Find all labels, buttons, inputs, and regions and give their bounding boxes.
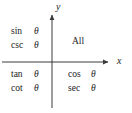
quadrant-2-group: sin θ csc θ: [11, 26, 39, 54]
function-entry: cos θ: [68, 69, 96, 83]
function-entry: cot θ: [11, 83, 39, 97]
function-argument: θ: [34, 40, 39, 50]
function-name: csc: [11, 40, 34, 50]
function-name: sin: [11, 26, 34, 36]
function-argument: θ: [91, 83, 96, 93]
function-argument: θ: [34, 26, 39, 36]
quadrant-3-group: tan θ cot θ: [11, 69, 39, 97]
function-name: tan: [11, 69, 34, 79]
function-name: cos: [68, 69, 91, 79]
function-argument: θ: [34, 69, 39, 79]
function-entry: csc θ: [11, 40, 39, 54]
function-name: cot: [11, 83, 34, 93]
quadrant-4-group: cos θ sec θ: [68, 69, 96, 97]
function-entry: sin θ: [11, 26, 39, 40]
trig-quadrant-diagram: y x All sin θ csc θ tan θ cot θ cos θ: [0, 0, 132, 113]
function-entry: tan θ: [11, 69, 39, 83]
quadrant-1-group: All: [72, 30, 84, 48]
function-argument: θ: [91, 69, 96, 79]
function-entry: sec θ: [68, 83, 96, 97]
x-axis-label: x: [117, 56, 121, 66]
y-axis-label: y: [56, 2, 60, 12]
function-name: sec: [68, 83, 91, 93]
quadrant-1-label: All: [72, 36, 84, 46]
function-argument: θ: [34, 83, 39, 93]
